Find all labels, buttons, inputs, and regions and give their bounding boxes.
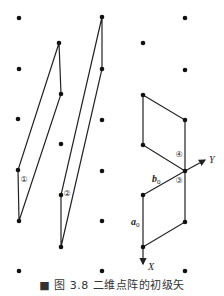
unit-cell-1: [18, 43, 61, 221]
x-axis-label: X: [147, 261, 155, 272]
lattice-point: [100, 15, 105, 20]
vector-labels: a0 b0: [131, 173, 161, 229]
a0-label: a0: [131, 216, 140, 229]
unit-cell-3: [143, 95, 185, 171]
lattice-point: [141, 41, 146, 46]
lattice-diagram: ①②④③ X Y a0 b0: [0, 0, 224, 296]
cell-label: ②: [63, 189, 70, 198]
lattice-point: [183, 169, 188, 174]
unit-cells: ①②④③: [18, 17, 185, 247]
lattice-point: [59, 92, 64, 97]
cell-label: ①: [20, 175, 27, 184]
figure: ①②④③ X Y a0 b0 ■ 图 3.8 二维点阵的初级矢: [0, 0, 224, 296]
cell-label: ④: [175, 150, 182, 159]
lattice-point: [183, 269, 188, 274]
lattice-point: [59, 245, 64, 250]
lattice-point: [59, 193, 64, 198]
b0-label: b0: [152, 173, 161, 186]
lattice-point: [183, 118, 188, 123]
lattice-point: [100, 118, 105, 123]
lattice-point: [141, 245, 146, 250]
lattice-point: [183, 220, 188, 225]
axes: X Y: [143, 154, 216, 272]
lattice-point: [141, 143, 146, 148]
unit-cell-2: [61, 17, 102, 247]
lattice-point: [100, 169, 105, 174]
y-axis-label: Y: [209, 154, 216, 165]
lattice-point: [59, 142, 64, 147]
lattice-point: [183, 68, 188, 73]
lattice-point: [100, 269, 105, 274]
lattice-point: [57, 41, 62, 46]
lattice-point: [17, 219, 22, 224]
y-axis-arrow: [185, 160, 205, 171]
lattice-point: [141, 193, 146, 198]
lattice-point: [183, 16, 188, 21]
figure-caption: ■ 图 3.8 二维点阵的初级矢: [0, 276, 224, 292]
lattice-point: [17, 269, 22, 274]
cell-label: ③: [175, 176, 182, 185]
lattice-point: [16, 117, 21, 122]
lattice-point: [17, 67, 22, 72]
lattice-point: [16, 168, 21, 173]
lattice-point: [100, 219, 105, 224]
lattice-point: [141, 93, 146, 98]
lattice-point: [17, 16, 22, 21]
lattice-point: [100, 67, 105, 72]
